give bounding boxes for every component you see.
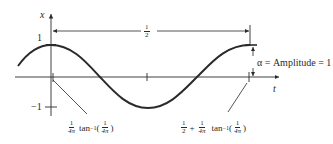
y-tick-label-minus-one: −1 — [31, 102, 42, 112]
leader-right — [228, 83, 247, 112]
waveform-diagram — [0, 0, 333, 144]
y-tick-label-one: 1 — [37, 33, 42, 43]
left-offset-label: 14π tan−1 (14π) — [66, 120, 113, 135]
y-axis-label: x — [40, 10, 44, 20]
leader-left — [53, 80, 87, 114]
x-axis-label: t — [273, 84, 276, 94]
period-label: 12 — [143, 24, 151, 39]
right-offset-label: 12 + 14π tan−1 (14π) — [180, 120, 246, 135]
amplitude-label: α = Amplitude = 1 — [257, 58, 331, 68]
